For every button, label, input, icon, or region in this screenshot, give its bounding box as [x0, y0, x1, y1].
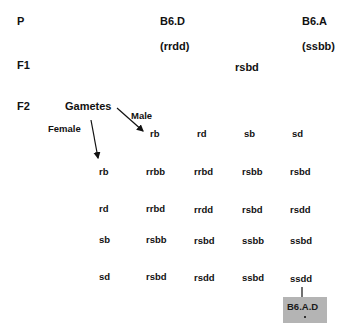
- result-dot: [304, 316, 306, 318]
- punnett-cell: rrbd: [194, 167, 213, 177]
- male-arrow-icon: [117, 108, 143, 131]
- punnett-cell: rrdd: [194, 205, 213, 215]
- male-gamete: rb: [150, 129, 160, 139]
- female-gamete: rb: [99, 167, 109, 177]
- female-gamete: sd: [99, 272, 110, 282]
- male-gamete: sd: [292, 129, 303, 139]
- result-strain-label: B6.A.D: [287, 302, 318, 312]
- result-strain-box: B6.A.D: [283, 297, 327, 323]
- punnett-cell: ssbd: [290, 236, 312, 246]
- punnett-cell: rsbd: [290, 167, 311, 177]
- punnett-cell: ssbd: [242, 273, 264, 283]
- punnett-cell-ssdd: ssdd: [290, 274, 312, 284]
- punnett-cell: rsbb: [146, 235, 167, 245]
- male-gamete: rd: [197, 129, 207, 139]
- male-gamete: sb: [244, 129, 255, 139]
- punnett-cell: ssbb: [242, 236, 264, 246]
- punnett-cell: rrbb: [146, 167, 165, 177]
- punnett-cell: rsbb: [242, 167, 263, 177]
- punnett-cell: rrbd: [146, 204, 165, 214]
- punnett-cell: rsdd: [194, 273, 215, 283]
- female-gamete: sb: [99, 235, 110, 245]
- punnett-cell: rsdd: [290, 205, 311, 215]
- female-arrow-icon: [91, 120, 98, 158]
- female-gamete: rd: [99, 204, 109, 214]
- punnett-cell: rsbd: [194, 236, 215, 246]
- punnett-cell: rsbd: [146, 272, 167, 282]
- punnett-cell: rsbd: [242, 205, 263, 215]
